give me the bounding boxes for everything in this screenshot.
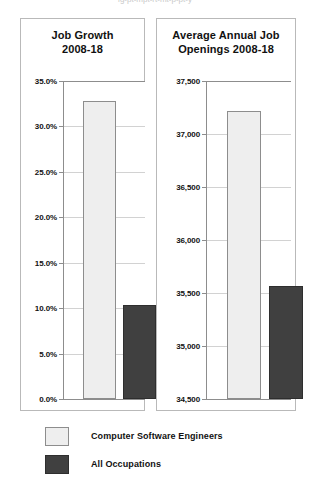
axis-tick bbox=[59, 263, 64, 264]
plot-area-annual-openings: 34,50035,00035,50036,00036,50037,00037,5… bbox=[206, 81, 291, 400]
chart-panel-job-growth: Job Growth 2008-18 0.0%5.0%10.0%15.0%20.… bbox=[20, 18, 145, 411]
y-axis-label: 35.0% bbox=[35, 77, 57, 86]
bar-job-growth-cse bbox=[83, 101, 116, 399]
cropped-header-text: ig-pt-mpt-rt-mt-p-pt-y bbox=[0, 0, 310, 9]
y-axis-label: 10.0% bbox=[35, 304, 57, 313]
bar-annual-openings-cse bbox=[227, 111, 261, 399]
chart-title-line2: 2008-18 bbox=[21, 42, 144, 56]
axis-tick bbox=[202, 293, 207, 294]
bar-job-growth-all bbox=[123, 305, 156, 399]
y-axis-label: 5.0% bbox=[39, 349, 57, 358]
axis-tick bbox=[59, 126, 64, 127]
axis-tick bbox=[59, 81, 64, 82]
bar-annual-openings-all bbox=[269, 286, 303, 399]
chart-legend: Computer Software EngineersAll Occupatio… bbox=[45, 425, 285, 481]
legend-label-cse: Computer Software Engineers bbox=[91, 431, 223, 441]
axis-tick bbox=[202, 81, 207, 82]
y-axis-label: 37,500 bbox=[176, 77, 200, 86]
y-axis-label: 37,000 bbox=[176, 130, 200, 139]
y-axis-label: 0.0% bbox=[39, 395, 57, 404]
chart-title-annual-openings: Average Annual Job Openings 2008-18 bbox=[157, 28, 295, 56]
axis-tick bbox=[202, 187, 207, 188]
chart-title-line1: Job Growth bbox=[51, 29, 113, 41]
chart-title-line2: Openings 2008-18 bbox=[157, 42, 295, 56]
axis-tick bbox=[59, 217, 64, 218]
legend-item-cse: Computer Software Engineers bbox=[45, 425, 285, 447]
y-axis-label: 36,500 bbox=[176, 183, 200, 192]
plot-area-job-growth: 0.0%5.0%10.0%15.0%20.0%25.0%30.0%35.0% bbox=[63, 81, 145, 400]
figure-container: ig-pt-mpt-rt-mt-p-pt-y Job Growth 2008-1… bbox=[0, 0, 310, 485]
chart-title-job-growth: Job Growth 2008-18 bbox=[21, 28, 144, 56]
y-axis-label: 36,000 bbox=[176, 236, 200, 245]
y-axis-label: 20.0% bbox=[35, 213, 57, 222]
y-axis-label: 35,500 bbox=[176, 289, 200, 298]
axis-tick bbox=[59, 308, 64, 309]
legend-label-all: All Occupations bbox=[91, 459, 161, 469]
y-axis-label: 25.0% bbox=[35, 167, 57, 176]
y-axis-label: 30.0% bbox=[35, 122, 57, 131]
y-axis-label: 35,000 bbox=[176, 342, 200, 351]
chart-panel-annual-openings: Average Annual Job Openings 2008-18 34,5… bbox=[156, 18, 296, 411]
chart-title-line1: Average Annual Job bbox=[172, 29, 279, 41]
axis-tick bbox=[59, 172, 64, 173]
y-axis-label: 15.0% bbox=[35, 258, 57, 267]
axis-tick bbox=[202, 346, 207, 347]
legend-swatch-cse bbox=[45, 427, 69, 446]
y-axis-label: 34,500 bbox=[176, 395, 200, 404]
axis-tick bbox=[202, 134, 207, 135]
legend-swatch-all bbox=[45, 455, 69, 474]
gridline bbox=[207, 81, 291, 82]
legend-item-all: All Occupations bbox=[45, 453, 285, 475]
axis-tick bbox=[202, 240, 207, 241]
gridline bbox=[64, 81, 145, 82]
axis-tick bbox=[59, 354, 64, 355]
axis-tick bbox=[59, 399, 64, 400]
axis-tick bbox=[202, 399, 207, 400]
